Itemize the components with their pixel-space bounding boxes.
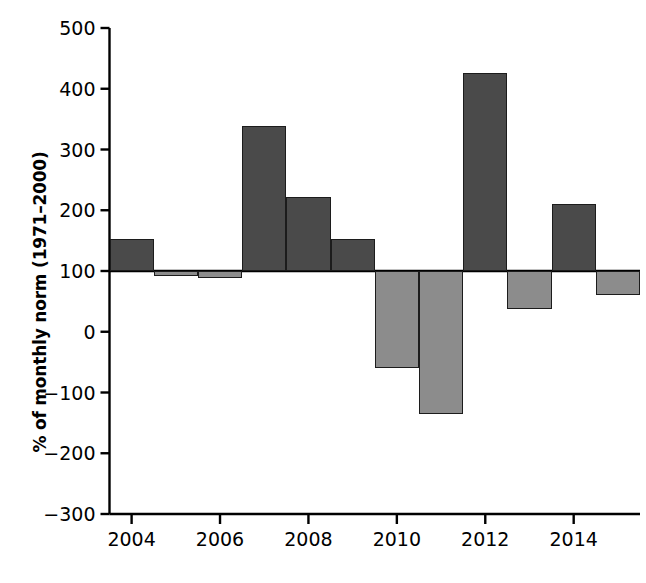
y-tick-label: 100: [59, 260, 95, 282]
bar: [596, 271, 640, 295]
bar: [331, 239, 375, 271]
y-tick-label: 500: [59, 17, 95, 39]
x-tick-label: 2008: [284, 528, 332, 550]
x-tick-label: 2014: [550, 528, 598, 550]
plot-area: 5004003002001000−100−200−300 20042006200…: [0, 0, 646, 583]
y-tick-label: −100: [43, 382, 95, 404]
x-tick-label: 2006: [196, 528, 244, 550]
bar: [375, 271, 419, 368]
bar: [110, 239, 154, 271]
bar: [419, 271, 463, 414]
bar: [286, 197, 330, 271]
x-tick-label: 2010: [373, 528, 421, 550]
y-tick-label: 200: [59, 199, 95, 221]
y-tick-label: 0: [83, 321, 95, 343]
x-tick-label: 2012: [461, 528, 509, 550]
bar: [198, 271, 242, 278]
bar: [154, 271, 198, 276]
y-tick-label: 300: [59, 139, 95, 161]
y-tick-label: −300: [43, 503, 95, 525]
bar: [242, 126, 286, 271]
y-tick-label: 400: [59, 78, 95, 100]
bar-chart-figure: % of monthly norm (1971–2000) 5004003002…: [0, 0, 646, 583]
x-tick-label: 2004: [107, 528, 155, 550]
y-tick-label: −200: [43, 442, 95, 464]
bar: [463, 73, 507, 271]
bar: [552, 204, 596, 271]
bar: [507, 271, 551, 309]
